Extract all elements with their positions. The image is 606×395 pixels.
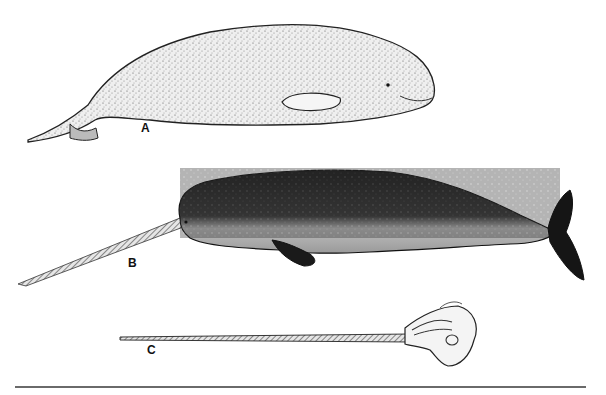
illustration-canvas: [0, 0, 606, 395]
narwhal-illustration: [18, 168, 584, 286]
panel-label-a: A: [141, 121, 150, 135]
panel-label-c: C: [147, 343, 156, 357]
bottom-divider-rule: [15, 386, 586, 388]
narwhal-skull-illustration: [120, 302, 476, 366]
beluga-illustration: [28, 24, 434, 142]
panel-label-b: B: [128, 256, 137, 270]
